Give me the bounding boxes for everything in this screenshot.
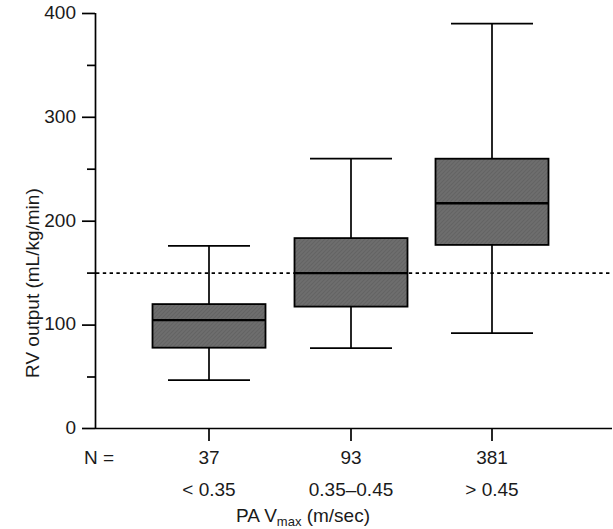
x-category-label-2: 0.35–0.45	[291, 479, 411, 501]
box-iqr-3	[436, 159, 549, 245]
x-axis-title-pre: PA V	[236, 505, 277, 526]
box-plot-group-3	[436, 24, 549, 333]
x-axis-title: PA Vmax (m/sec)	[236, 505, 370, 527]
x-axis-title-post: (m/sec)	[301, 505, 370, 526]
x-category-label-1: < 0.35	[149, 479, 269, 501]
n-count-2: 93	[301, 447, 401, 469]
boxplot-figure: RV output (mL/kg/min) 400 300 200 100 0	[0, 0, 613, 529]
x-category-label-3: > 0.45	[432, 479, 552, 501]
box-plot-group-2	[295, 159, 408, 348]
n-equals-label: N =	[84, 447, 114, 469]
x-axis-title-subscript: max	[277, 514, 302, 529]
n-count-3: 381	[442, 447, 542, 469]
n-count-1: 37	[159, 447, 259, 469]
box-iqr-1	[153, 304, 266, 348]
box-plot-group-1	[153, 246, 266, 380]
